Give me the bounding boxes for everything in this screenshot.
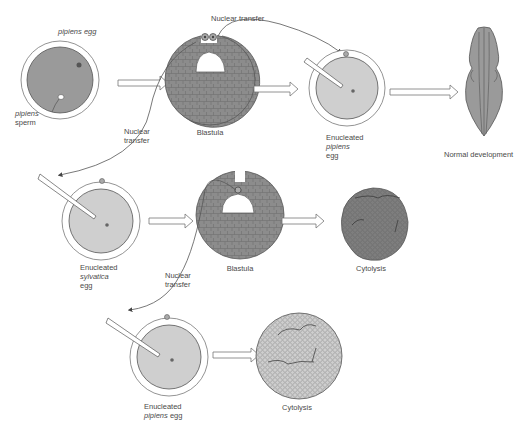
cytolysis-embryo-2 [256,313,342,399]
cytolysis-label-2: Cytolysis [282,403,312,412]
label-line: Enucleated [326,133,364,142]
enucleated-pipiens-egg-2 [106,315,208,397]
species-name: pipiens [144,411,168,420]
label-line: transfer [165,280,191,289]
arrow-sylvatica-to-blastula [149,214,193,228]
label-line: Nuclear [124,127,150,136]
blastula-label-1: Blastula [188,128,232,137]
normal-development-label: Normal development [444,150,513,159]
label-line: Nuclear [165,271,191,280]
nuclear-transfer-label-row3: Nuclear transfer [165,271,191,289]
label-line: transfer [124,136,150,145]
enucleated-pipiens-egg-1 [304,50,385,126]
species-name: pipiens [326,142,364,151]
blastula-1 [165,29,260,127]
nuclear-transfer-label-row2: Nuclear transfer [124,127,150,145]
label-line: egg [326,151,364,160]
cytolysis-embryo-1 [341,188,408,260]
label-line: Enucleated [80,263,118,272]
arrow-recipient-to-cytolysis-2 [213,348,259,362]
pipiens-egg [21,41,99,119]
label-line: Enucleated [144,402,182,411]
enucleated-pipiens-egg-label-1: Enucleated pipiens egg [326,133,364,160]
nuclear-transfer-diagram [0,0,531,428]
arrow-recipient-to-development [390,85,458,99]
blastula-label-2: Blastula [218,264,262,273]
enucleated-pipiens-egg-label-2: Enucleated pipiens egg [144,402,182,420]
enucleated-sylvatica-egg-label: Enucleated sylvatica egg [80,263,118,290]
normal-development-embryo [466,27,503,136]
sperm-word: sperm [15,118,39,127]
egg-word: egg [170,411,183,420]
enucleated-sylvatica-egg [38,174,140,260]
arrow-blastula-to-cytolysis-1 [282,214,324,228]
species-name: pipiens [15,109,39,118]
species-name: pipiens [58,27,82,36]
pipiens-egg-label: pipiens egg [58,27,96,36]
species-name: sylvatica [80,272,118,281]
arrow-blastula-to-recipient-1 [254,82,298,96]
cytolysis-label-1: Cytolysis [356,264,386,273]
label-line: egg [80,281,118,290]
pipiens-sperm-label: pipienssperm [15,109,39,127]
nuclear-transfer-label-top: Nuclear transfer [211,14,264,23]
egg-word: egg [84,27,97,36]
